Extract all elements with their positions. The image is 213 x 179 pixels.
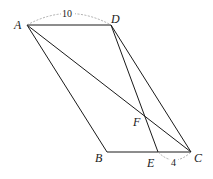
measure-ad-label: 10 (62, 8, 72, 19)
point-label-e: E (146, 156, 155, 170)
point-label-a: A (13, 18, 22, 32)
point-label-b: B (95, 151, 103, 165)
segment-ac (27, 25, 191, 152)
point-label-f: F (132, 115, 141, 129)
point-label-c: C (194, 151, 203, 165)
geometry-diagram: 10 4 A D B C E F (0, 0, 213, 179)
point-label-d: D (110, 12, 120, 26)
measure-ec-label: 4 (171, 157, 176, 168)
segment-ab (27, 25, 107, 152)
